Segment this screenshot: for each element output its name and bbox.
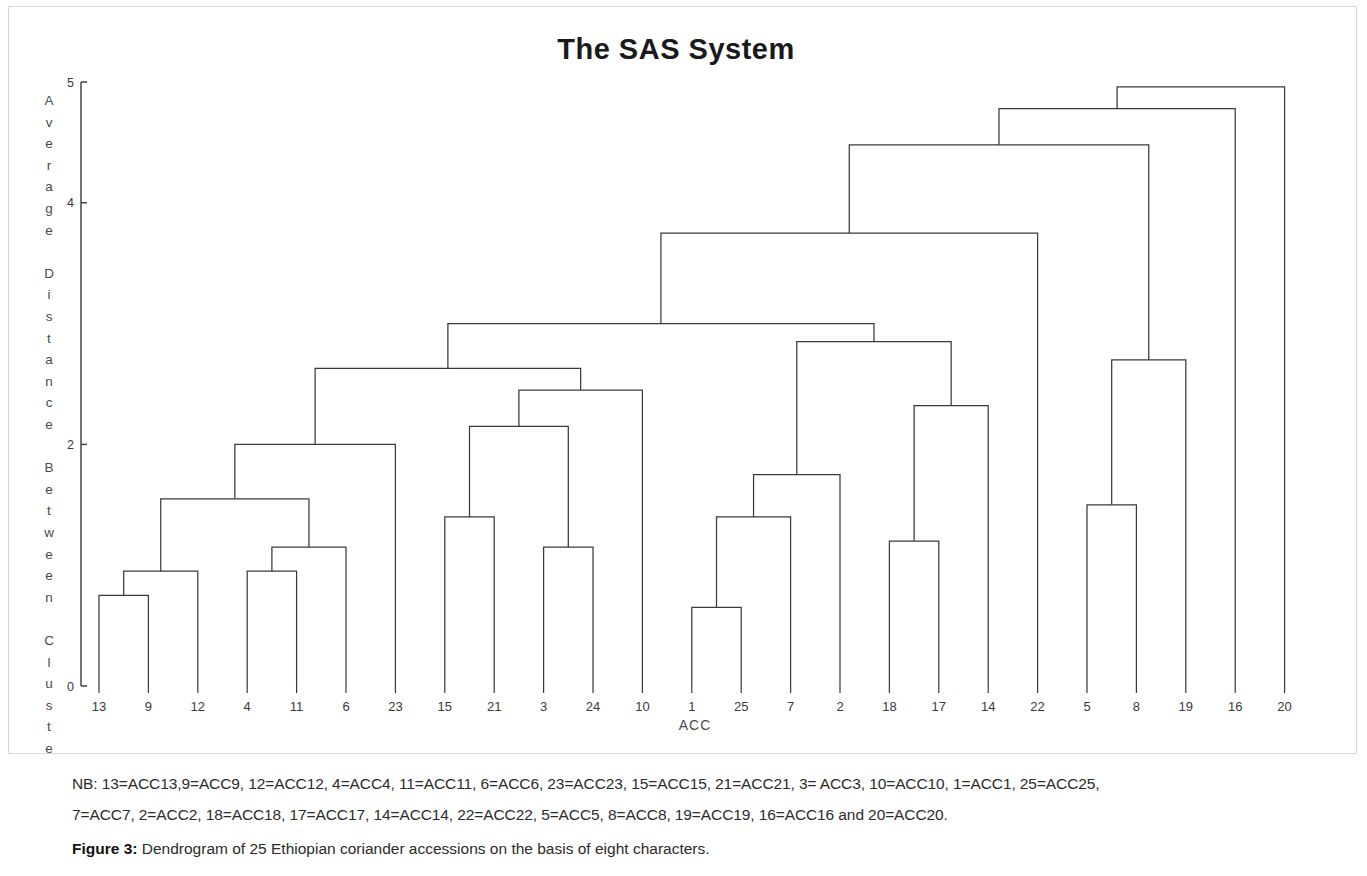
leaf-labels: 1391241162315213241012572181714225819162… <box>92 686 1292 714</box>
leaf-label-2: 2 <box>836 699 843 714</box>
dendrogram-link <box>124 571 198 686</box>
y-axis-label-char: e <box>45 136 53 151</box>
y-axis-label-char: C <box>44 633 54 648</box>
dendrogram-link <box>445 517 494 686</box>
dendrogram-link <box>470 426 569 547</box>
y-axis-label-char: c <box>46 395 53 410</box>
y-axis-label-char: D <box>44 266 54 281</box>
leaf-label-8: 8 <box>1133 699 1140 714</box>
chart-title: The SAS System <box>557 33 794 65</box>
y-axis-label-char: r <box>47 158 52 173</box>
dendrogram-figure-frame: The SAS System AverageDistanceBetweenClu… <box>8 6 1357 754</box>
note-line-1: NB: 13=ACC13,9=ACC9, 12=ACC12, 4=ACC4, 1… <box>72 768 1322 799</box>
y-tick-label: 4 <box>67 196 74 210</box>
y-axis-label-char: s <box>46 698 53 713</box>
dendrogram-links <box>99 87 1285 686</box>
dendrogram-link <box>235 444 396 686</box>
figure-page: The SAS System AverageDistanceBetweenClu… <box>0 0 1367 876</box>
dendrogram-link <box>544 547 593 686</box>
leaf-label-12: 12 <box>191 699 205 714</box>
leaf-label-3: 3 <box>540 699 547 714</box>
leaf-label-16: 16 <box>1228 699 1242 714</box>
y-axis-label-char: v <box>46 115 53 130</box>
dendrogram-link <box>1087 505 1136 686</box>
y-axis-label-char: a <box>45 352 53 367</box>
leaf-label-18: 18 <box>882 699 896 714</box>
y-axis-label-char: l <box>48 655 51 670</box>
leaf-label-6: 6 <box>342 699 349 714</box>
y-axis-label-char: A <box>44 93 53 108</box>
x-axis-title: ACC <box>679 717 712 733</box>
y-axis-label-char: s <box>46 309 53 324</box>
leaf-label-20: 20 <box>1277 699 1291 714</box>
y-axis-label-char: g <box>45 201 53 216</box>
dendrogram-link <box>889 541 938 686</box>
leaf-label-10: 10 <box>635 699 649 714</box>
y-axis-label-char: e <box>45 547 53 562</box>
leaf-label-11: 11 <box>290 699 304 714</box>
y-axis-label-char: a <box>45 179 53 194</box>
dendrogram-link <box>161 499 309 571</box>
axes: 0245 <box>67 76 87 694</box>
y-axis-label-char: t <box>47 503 51 518</box>
leaf-label-19: 19 <box>1179 699 1193 714</box>
leaf-label-7: 7 <box>787 699 794 714</box>
leaf-label-17: 17 <box>932 699 946 714</box>
leaf-label-22: 22 <box>1030 699 1044 714</box>
leaf-label-13: 13 <box>92 699 106 714</box>
note-line-2: 7=ACC7, 2=ACC2, 18=ACC18, 17=ACC17, 14=A… <box>72 799 1322 830</box>
dendrogram-link <box>661 233 1038 686</box>
dendrogram-link <box>914 406 988 686</box>
dendrogram-link <box>999 109 1235 686</box>
y-axis-label-char: t <box>47 331 51 346</box>
leaf-label-25: 25 <box>734 699 748 714</box>
dendrogram-link <box>1112 360 1186 686</box>
y-axis-label-char: e <box>45 482 53 497</box>
dendrogram-link <box>315 368 581 444</box>
y-axis-label-char: e <box>45 741 53 755</box>
dendrogram-link <box>797 342 951 475</box>
caption-block: NB: 13=ACC13,9=ACC9, 12=ACC12, 4=ACC4, 1… <box>72 768 1322 862</box>
dendrogram-plot: The SAS System AverageDistanceBetweenClu… <box>9 7 1358 755</box>
dendrogram-link <box>717 517 791 686</box>
leaf-label-23: 23 <box>388 699 402 714</box>
leaf-label-5: 5 <box>1083 699 1090 714</box>
y-axis-label-char: w <box>43 525 54 540</box>
y-axis-label-char: e <box>45 417 53 432</box>
dendrogram-link <box>519 390 643 686</box>
y-axis-label-char: e <box>45 223 53 238</box>
y-tick-label: 2 <box>67 438 74 452</box>
figure-caption-label: Figure 3: <box>72 840 137 857</box>
y-axis-label: AverageDistanceBetweenClusters <box>43 93 54 755</box>
y-axis-label-char: e <box>45 568 53 583</box>
leaf-label-14: 14 <box>981 699 995 714</box>
leaf-label-15: 15 <box>438 699 452 714</box>
dendrogram-link <box>849 145 1148 360</box>
y-axis-label-char: i <box>48 287 51 302</box>
leaf-label-4: 4 <box>244 699 251 714</box>
figure-caption-text: Dendrogram of 25 Ethiopian coriander acc… <box>137 840 709 857</box>
leaf-label-24: 24 <box>586 699 600 714</box>
leaf-label-21: 21 <box>487 699 501 714</box>
leaf-label-1: 1 <box>688 699 695 714</box>
dendrogram-link <box>754 475 840 686</box>
y-tick-label: 0 <box>67 680 74 694</box>
dendrogram-link <box>692 607 741 686</box>
y-axis-label-char: n <box>45 374 53 389</box>
y-tick-label: 5 <box>67 76 74 90</box>
y-axis-label-char: t <box>47 719 51 734</box>
y-axis-label-char: B <box>44 460 53 475</box>
y-axis-label-char: n <box>45 590 53 605</box>
dendrogram-link <box>247 571 296 686</box>
figure-caption: Figure 3: Dendrogram of 25 Ethiopian cor… <box>72 836 1322 862</box>
dendrogram-link <box>272 547 346 686</box>
y-axis-label-char: u <box>45 676 53 691</box>
dendrogram-link <box>99 595 148 686</box>
dendrogram-link <box>448 324 874 369</box>
leaf-label-9: 9 <box>145 699 152 714</box>
dendrogram-link <box>1117 87 1284 686</box>
